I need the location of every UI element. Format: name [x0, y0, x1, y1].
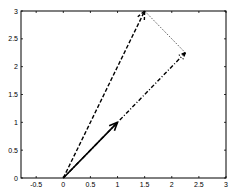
y-tick-label: 1 — [14, 119, 18, 126]
y-tick-label: 0 — [14, 175, 18, 182]
x-tick-label: 3 — [224, 181, 228, 188]
x-tick-label: 1 — [116, 181, 120, 188]
vector-chart: -0.500.511.522.5300.511.522.53 — [0, 0, 236, 191]
connector-dotted-line — [145, 11, 186, 53]
vector-dashed-line — [63, 11, 144, 178]
chart-canvas: -0.500.511.522.5300.511.522.53 — [0, 0, 236, 191]
y-tick-label: 0.5 — [8, 147, 18, 154]
x-tick-label: 0 — [61, 181, 65, 188]
y-tick-label: 2 — [14, 63, 18, 70]
plot-frame — [21, 11, 226, 178]
x-tick-label: 2.5 — [194, 181, 204, 188]
y-tick-label: 2.5 — [8, 35, 18, 42]
y-tick-label: 1.5 — [8, 91, 18, 98]
x-tick-label: 2 — [170, 181, 174, 188]
x-tick-label: 1.5 — [140, 181, 150, 188]
y-tick-label: 3 — [14, 8, 18, 15]
x-tick-label: 0.5 — [86, 181, 96, 188]
x-tick-label: -0.5 — [30, 181, 42, 188]
